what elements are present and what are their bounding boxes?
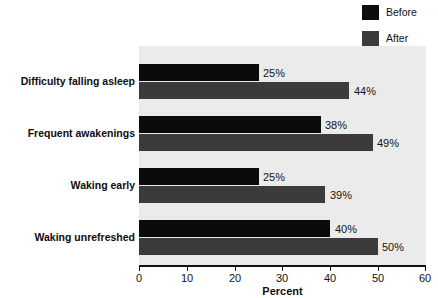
x-axis-tick-label-0: 0: [136, 272, 142, 284]
category-label-difficulty-falling-asleep: Difficulty falling asleep: [2, 75, 139, 87]
x-axis-tick-label-40: 40: [324, 272, 336, 284]
category-label-waking-unrefreshed: Waking unrefreshed: [2, 231, 139, 243]
bar-value-before-4: 40%: [335, 223, 357, 235]
bar-value-after-4: 50%: [382, 241, 404, 253]
category-label-waking-early: Waking early: [2, 179, 139, 191]
x-axis-tick-label-20: 20: [229, 272, 241, 284]
x-axis-tick-label-30: 30: [276, 272, 288, 284]
legend-swatch-after-icon: [362, 31, 379, 46]
bar-before-3: [139, 168, 259, 185]
legend-label-after: After: [386, 33, 408, 44]
x-axis-tick-40: [330, 265, 331, 271]
bar-before-4: [139, 220, 330, 237]
x-axis-tick-0: [139, 265, 140, 271]
bar-value-after-3: 39%: [330, 189, 352, 201]
x-axis-tick-30: [282, 265, 283, 271]
x-axis-tick-label-60: 60: [419, 272, 431, 284]
bar-after-2: [139, 134, 373, 151]
x-axis-tick-50: [378, 265, 379, 271]
x-axis-tick-10: [187, 265, 188, 271]
category-label-frequent-awakenings: Frequent awakenings: [2, 127, 139, 139]
x-axis-title: Percent: [139, 285, 426, 297]
x-axis-tick-label-50: 50: [372, 272, 384, 284]
bar-after-4: [139, 238, 378, 255]
x-axis-tick-label-10: 10: [181, 272, 193, 284]
bar-value-before-2: 38%: [325, 119, 347, 131]
chart-bars-container: 25% 44% 38% 49% 25%: [139, 46, 426, 265]
legend-label-before: Before: [386, 7, 417, 18]
chart-plot-area: 25% 44% 38% 49% 25%: [139, 46, 426, 265]
legend-item-after: After: [362, 30, 434, 46]
category-axis-labels: Difficulty falling asleep Frequent awake…: [0, 0, 139, 298]
bar-value-before-3: 25%: [263, 171, 285, 183]
bar-value-after-1: 44%: [354, 85, 376, 97]
bar-before-1: [139, 64, 259, 81]
bar-value-after-2: 49%: [377, 137, 399, 149]
x-axis-tick-60: [425, 265, 426, 271]
bar-before-2: [139, 116, 321, 133]
bar-after-3: [139, 186, 325, 203]
legend-swatch-before-icon: [362, 5, 379, 20]
legend-item-before: Before: [362, 4, 434, 20]
x-axis-tick-20: [235, 265, 236, 271]
bar-value-before-1: 25%: [263, 67, 285, 79]
bar-after-1: [139, 82, 349, 99]
